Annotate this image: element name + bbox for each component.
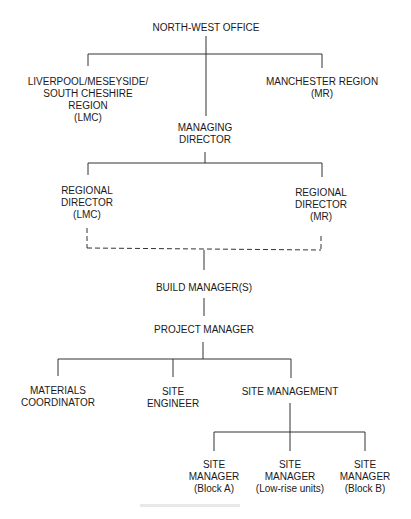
node-project-manager: PROJECT MANAGER xyxy=(154,324,254,336)
node-label: SITE xyxy=(189,459,240,471)
node-label: DIRECTOR xyxy=(61,197,113,209)
node-label: REGION xyxy=(28,100,149,112)
node-manchester-region: MANCHESTER REGION (MR) xyxy=(266,76,378,100)
node-label: MANAGER xyxy=(256,471,324,483)
node-label: (Block A) xyxy=(189,483,240,495)
node-site-manager-block-a: SITE MANAGER (Block A) xyxy=(189,459,240,495)
node-label: SOUTH CHESHIRE xyxy=(28,88,149,100)
node-label: REGIONAL xyxy=(295,187,347,199)
node-materials-coordinator: MATERIALS COORDINATOR xyxy=(21,385,95,409)
node-label: BUILD MANAGER(S) xyxy=(156,282,252,294)
node-build-managers: BUILD MANAGER(S) xyxy=(156,282,252,294)
node-label: (MR) xyxy=(295,211,347,223)
node-managing-director: MANAGING DIRECTOR xyxy=(178,122,232,146)
node-label: MATERIALS xyxy=(21,385,95,397)
node-label: DIRECTOR xyxy=(295,199,347,211)
node-label: (MR) xyxy=(266,88,378,100)
node-label: SITE MANAGEMENT xyxy=(242,386,339,398)
node-label: REGIONAL xyxy=(61,185,113,197)
node-site-management: SITE MANAGEMENT xyxy=(242,386,339,398)
node-label: SITE xyxy=(340,459,391,471)
node-lmc-region: LIVERPOOL/MESEYSIDE/ SOUTH CHESHIRE REGI… xyxy=(28,76,149,124)
node-label: MANAGER xyxy=(189,471,240,483)
node-site-manager-low-rise: SITE MANAGER (Low-rise units) xyxy=(256,459,324,495)
node-label: LIVERPOOL/MESEYSIDE/ xyxy=(28,76,149,88)
node-label: MANCHESTER REGION xyxy=(266,76,378,88)
node-regional-director-lmc: REGIONAL DIRECTOR (LMC) xyxy=(61,185,113,221)
node-site-engineer: SITE ENGINEER xyxy=(147,386,199,410)
node-label: (Block B) xyxy=(340,483,391,495)
node-site-manager-block-b: SITE MANAGER (Block B) xyxy=(340,459,391,495)
node-label: (LMC) xyxy=(61,209,113,221)
node-label: NORTH-WEST OFFICE xyxy=(153,22,260,34)
node-label: ENGINEER xyxy=(147,398,199,410)
node-label: (Low-rise units) xyxy=(256,483,324,495)
node-label: COORDINATOR xyxy=(21,397,95,409)
node-label: SITE xyxy=(256,459,324,471)
node-label: MANAGING xyxy=(178,122,232,134)
node-label: (LMC) xyxy=(28,112,149,124)
node-label: MANAGER xyxy=(340,471,391,483)
node-label: SITE xyxy=(147,386,199,398)
node-regional-director-mr: REGIONAL DIRECTOR (MR) xyxy=(295,187,347,223)
node-north-west-office: NORTH-WEST OFFICE xyxy=(153,22,260,34)
faded-caption-artifact xyxy=(140,504,240,507)
node-label: DIRECTOR xyxy=(178,134,232,146)
node-label: PROJECT MANAGER xyxy=(154,324,254,336)
